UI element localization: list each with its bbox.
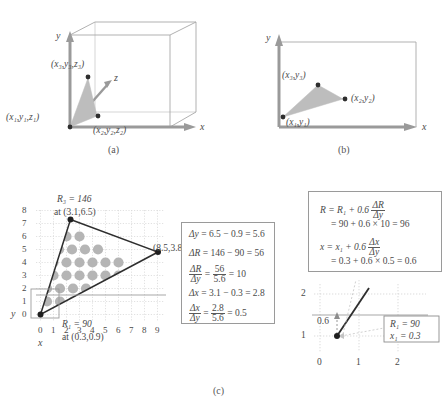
panel-a: y z x (x₃,y₃,z₃) (x₁,y₁,z₁) (x₂,y₂,z₂) (… — [0, 0, 228, 165]
panel-c-grid: 8 7 6 5 4 3 2 1 0 0 1 2 3 4 5 6 7 8 9 y … — [14, 196, 194, 371]
eq-delta-r-over-delta-y: ΔRΔy = 565.6 = 10 — [189, 265, 246, 285]
vertex-dot-2 — [343, 97, 348, 102]
y-tick-2: 2 — [22, 284, 27, 293]
panel-b: y x (x₃,y₃) (x₂,y₂) (x₁,y₁) (b) — [228, 0, 448, 165]
panel-c-inset: 2 1 0 1 2 0.6 R₁ = 90 x₁ = 0.3 — [296, 278, 448, 378]
y-tick-4: 4 — [22, 258, 27, 267]
top-vertex-at-label: at (3.1,6.5) — [54, 208, 96, 218]
inset-x-tick-1: 1 — [356, 358, 361, 368]
y-tick-6: 6 — [22, 232, 27, 241]
y-axis-arrow — [66, 31, 74, 127]
inset-edge-line — [337, 288, 369, 336]
inset-r1-label: R₁ = 90 — [390, 320, 420, 330]
panel-a-vertex2-label: (x₂,y₂,z₂) — [93, 126, 126, 136]
bottom-vertex-at-label: at (0.3,0.9) — [62, 333, 104, 343]
eq-delta-r: ΔR = 146 − 90 = 56 — [189, 248, 264, 258]
inset-x-tick-2: 2 — [395, 358, 400, 368]
x-tick-9: 9 — [155, 326, 160, 335]
panel-c-x-axis-label: x — [38, 338, 42, 348]
viewport-rect — [279, 42, 416, 127]
panel-b-x-axis-label: x — [422, 122, 426, 132]
vertex-dot-1 — [281, 115, 286, 120]
inset-vertex-dot — [334, 333, 340, 339]
y-tick-1: 1 — [22, 297, 27, 306]
y-tick-5: 5 — [22, 245, 27, 254]
y-tick-8: 8 — [22, 206, 27, 215]
inset-offset-label: 0.6 — [317, 317, 329, 327]
x-tick-7: 7 — [129, 326, 134, 335]
triangle-3d — [70, 78, 97, 127]
panel-a-z-axis-label: z — [114, 73, 118, 83]
panel-a-vertex3-label: (x₃,y₃,z₃) — [51, 60, 84, 70]
panel-b-vertex1-label: (x₁,y₁) — [286, 118, 310, 128]
bottom-vertex-value-label: R₁ = 90 — [62, 320, 92, 330]
y-tick-3: 3 — [22, 271, 27, 280]
panel-a-y-axis-label: y — [56, 31, 60, 41]
inset-x1-label: x₁ = 0.3 — [390, 332, 421, 342]
y-tick-0: 0 — [22, 310, 27, 319]
x-axis-arrow — [70, 123, 196, 131]
panel-a-caption: (a) — [108, 144, 119, 155]
y-tick-7: 7 — [22, 219, 27, 228]
equation-box-left: Δy = 6.5 − 0.9 = 5.6 ΔR = 146 − 90 = 56 … — [181, 222, 275, 324]
vertex-dot-bottom — [38, 312, 44, 318]
eq-delta-y: Δy = 6.5 − 0.9 = 5.6 — [189, 229, 265, 239]
y-axis-arrow — [275, 34, 283, 127]
x-tick-0: 0 — [38, 326, 43, 335]
inset-x-tick-0: 0 — [317, 358, 322, 368]
inset-y-tick-1: 1 — [301, 331, 306, 341]
inset-y-tick-2: 2 — [301, 289, 306, 299]
panel-b-svg — [228, 0, 448, 165]
panel-b-caption: (b) — [338, 144, 350, 155]
eq-x-result: = 0.3 + 0.6 × 0.5 = 0.6 — [331, 256, 417, 266]
x-tick-1: 1 — [51, 326, 56, 335]
inset-offset-arrowhead — [334, 312, 340, 319]
vertex-dot-2 — [96, 114, 101, 119]
triangle-2d — [283, 85, 343, 117]
eq-delta-x: Δx = 3.1 − 0.3 = 2.8 — [189, 288, 265, 298]
vertex-dot-3 — [86, 75, 91, 80]
inset-guide-to-box — [341, 328, 384, 336]
panel-b-y-axis-label: y — [266, 33, 270, 43]
top-vertex-value-label: R₃ = 146 — [57, 195, 92, 205]
panel-a-vertex1-label: (x₁,y₁,z₁) — [6, 113, 39, 123]
panel-b-vertex3-label: (x₃,y₃) — [282, 71, 306, 81]
eq-delta-x-over-delta-y: ΔxΔy = 2.85.6 = 0.5 — [189, 304, 247, 324]
x-tick-6: 6 — [116, 326, 121, 335]
panel-c-caption: (c) — [213, 385, 224, 396]
inset-guide-up — [343, 280, 356, 334]
x-tick-8: 8 — [142, 326, 147, 335]
eq-r-result: = 90 + 0.6 × 10 = 96 — [331, 219, 409, 229]
equation-box-right: R = R₁ + 0.6 ΔRΔy = 90 + 0.6 × 10 = 96 x… — [308, 191, 442, 272]
vertex-dot-3 — [316, 83, 321, 88]
panel-a-x-axis-label: x — [200, 122, 204, 132]
panel-b-vertex2-label: (x₂,y₂) — [351, 94, 375, 104]
panel-c-y-axis-label: y — [11, 309, 15, 319]
vertex-dot-1 — [68, 125, 73, 130]
